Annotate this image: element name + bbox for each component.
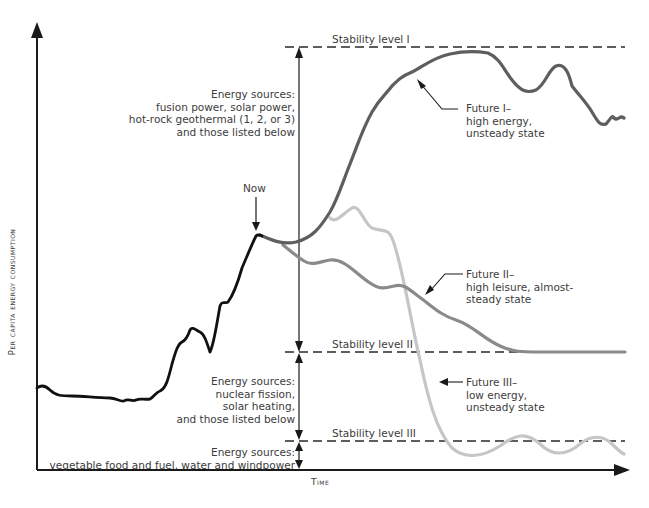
range-arrow-down-icon — [295, 341, 303, 352]
future-2-arrow-icon — [425, 285, 434, 295]
now-arrow-icon — [252, 222, 260, 231]
stability-level-1-label: Stability level I — [332, 33, 410, 46]
range-arrow-up-icon — [295, 353, 303, 363]
future-3-arrow-icon — [439, 378, 448, 386]
future-2-curve — [283, 245, 625, 352]
now-arrow — [252, 197, 260, 231]
energy-sources-level-1: Energy sources: fusion power, solar powe… — [129, 88, 295, 138]
energy-sources-level-2: Energy sources: nuclear fission, solar h… — [177, 375, 296, 425]
range-arrow-down-icon — [295, 460, 303, 469]
range-arrow-down-icon — [295, 430, 303, 440]
future-1-arrow-icon — [417, 79, 426, 89]
range-arrow-up-icon — [295, 47, 303, 58]
y-axis — [31, 22, 43, 470]
future-2-label: Future II– high leisure, almost- steady … — [466, 268, 573, 306]
range-arrow-up-icon — [295, 442, 303, 451]
now-label: Now — [243, 182, 266, 195]
future-1-label: Future I– high energy, unsteady state — [466, 102, 545, 140]
future-1-curve — [260, 52, 624, 243]
y-axis-label: Per capita energy consumption — [6, 162, 19, 422]
x-axis-label: Time — [311, 476, 329, 489]
future-2-leader — [425, 274, 463, 295]
future-3-label: Future III– low energy, unsteady state — [466, 376, 545, 414]
x-axis-arrow-icon — [614, 464, 630, 476]
energy-sources-level-3: Energy sources: vegetable food and fuel,… — [50, 446, 295, 471]
diagram-canvas — [0, 0, 649, 508]
future-3-leader — [439, 378, 463, 386]
stability-level-2-label: Stability level II — [332, 338, 413, 351]
y-axis-arrow-icon — [31, 22, 43, 38]
future-1-leader — [417, 79, 458, 109]
stability-level-3-label: Stability level III — [332, 427, 416, 440]
